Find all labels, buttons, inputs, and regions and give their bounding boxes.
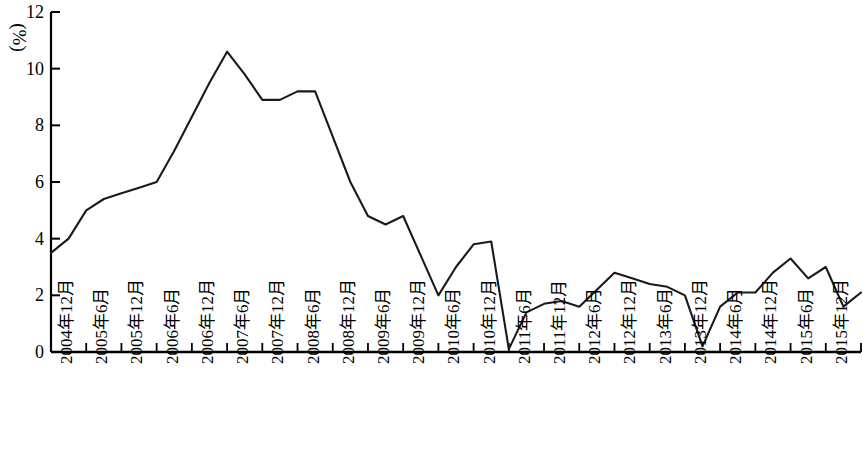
x-axis-tick-label: 2014年12月 <box>762 279 779 364</box>
x-axis-tick-label: 2010年12月 <box>481 279 498 364</box>
x-axis-tick-label: 2008年12月 <box>340 279 357 364</box>
x-axis-tick-label: 2013年6月 <box>657 288 674 365</box>
x-axis-tick-label: 2004年12月 <box>58 279 75 364</box>
x-axis-tick-label: 2012年12月 <box>621 279 638 364</box>
x-axis-tick-label: 2013年12月 <box>692 279 709 364</box>
x-axis-tick-label: 2006年6月 <box>164 288 181 365</box>
x-axis-tick-label: 2015年6月 <box>798 288 815 365</box>
x-axis-tick-label: 2005年6月 <box>93 288 110 365</box>
x-axis-tick-label: 2011年6月 <box>516 288 533 364</box>
x-axis-tick-labels: 2004年12月2005年6月2005年12月2006年6月2006年12月20… <box>0 0 863 452</box>
x-axis-tick-label: 2007年12月 <box>269 279 286 364</box>
x-axis-tick-label: 2009年6月 <box>375 288 392 365</box>
line-chart: (%) 024681012 2004年12月2005年6月2005年12月200… <box>0 0 863 452</box>
x-axis-tick-label: 2010年6月 <box>445 288 462 365</box>
x-axis-tick-label: 2011年12月 <box>551 280 568 364</box>
x-axis-tick-label: 2007年6月 <box>234 288 251 365</box>
x-axis-tick-label: 2009年12月 <box>410 279 427 364</box>
x-axis-tick-label: 2012年6月 <box>586 288 603 365</box>
x-axis-tick-label: 2015年12月 <box>833 279 850 364</box>
x-axis-tick-label: 2008年6月 <box>305 288 322 365</box>
x-axis-tick-label: 2014年6月 <box>727 288 744 365</box>
x-axis-tick-label: 2006年12月 <box>199 279 216 364</box>
x-axis-tick-label: 2005年12月 <box>128 279 145 364</box>
